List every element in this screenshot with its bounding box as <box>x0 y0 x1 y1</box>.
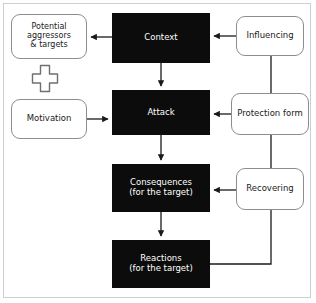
node-reactions[interactable]: Reactions (for the target) <box>112 240 210 288</box>
node-potential-aggressors-and-targets[interactable]: Potential aggressors & targets <box>11 14 87 59</box>
node-protection-form[interactable]: Protection form <box>231 93 309 135</box>
node-context[interactable]: Context <box>112 13 210 63</box>
node-attack-label: Attack <box>145 108 176 118</box>
node-context-label: Context <box>142 33 179 43</box>
connector-reactions-to-recovering <box>210 210 271 264</box>
node-influencing[interactable]: Influencing <box>236 16 304 56</box>
node-reactions-label: Reactions (for the target) <box>127 254 195 273</box>
plus-symbol <box>31 64 59 93</box>
node-motivation-label: Motivation <box>25 114 74 124</box>
node-recovering-label: Recovering <box>244 184 296 194</box>
node-influencing-label: Influencing <box>244 31 295 41</box>
node-protection-form-label: Protection form <box>235 109 305 119</box>
node-consequences-label: Consequences (for the target) <box>127 178 195 197</box>
node-motivation[interactable]: Motivation <box>11 99 87 139</box>
node-potential-label: Potential aggressors & targets <box>25 23 73 50</box>
node-recovering[interactable]: Recovering <box>236 168 304 210</box>
plus-symbol-icon <box>31 64 59 93</box>
node-consequences[interactable]: Consequences (for the target) <box>112 164 210 212</box>
diagram-root: Potential aggressors & targets Motivatio… <box>0 0 316 303</box>
node-attack[interactable]: Attack <box>112 90 210 135</box>
